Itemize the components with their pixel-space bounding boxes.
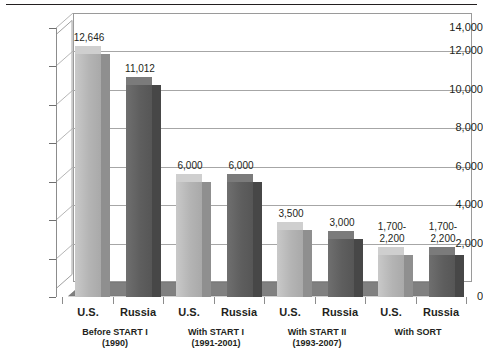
bar-top-face <box>75 46 101 54</box>
y-axis-label-4000: 4,000 <box>431 199 483 210</box>
bar-us-with-sort[interactable] <box>378 255 404 297</box>
bar-value-label-6: 3,000 <box>314 217 370 229</box>
bar-front-face <box>75 54 101 297</box>
bar-front-face <box>378 255 404 297</box>
wall-edge-12000 <box>56 51 74 67</box>
bar-front-face <box>126 85 152 297</box>
bar-russia-before-start-i[interactable] <box>126 85 152 297</box>
group-label-with-sort: With SORT <box>363 327 473 338</box>
category-tick-7 <box>416 297 417 304</box>
category-label-russia-4: Russia <box>413 306 469 318</box>
bar-top-face <box>429 247 455 255</box>
wall-edge-2000 <box>56 244 74 260</box>
bar-side-face <box>202 182 211 297</box>
y-axis-label-12000: 12,000 <box>431 45 483 56</box>
value-axis-line <box>56 28 57 297</box>
category-label-us-2: U.S. <box>161 306 217 318</box>
category-tick-8 <box>466 297 467 304</box>
bar-russia-with-start-i[interactable] <box>227 182 253 297</box>
bar-front-face <box>277 230 303 297</box>
y-axis-tick-8000 <box>49 143 56 144</box>
category-label-russia-1: Russia <box>110 306 166 318</box>
wall-edge-6000 <box>56 167 74 183</box>
y-axis-label-14000: 14,000 <box>431 22 483 33</box>
bar-side-face <box>455 255 464 297</box>
plot-area: 14,000 12,000 10,000 8,000 6,000 4,000 2… <box>0 0 483 352</box>
y-axis-tick-2000 <box>49 259 56 260</box>
bar-value-label-2: 11,012 <box>112 63 168 75</box>
group-label-with-start-i: With START I (1991-2001) <box>161 327 271 349</box>
bar-value-label-3: 6,000 <box>162 160 218 172</box>
bar-top-face <box>176 174 202 182</box>
wall-edge-4000 <box>56 205 74 221</box>
category-tick-6 <box>365 297 366 304</box>
bar-side-face <box>404 255 413 297</box>
gridline-12000 <box>73 51 472 52</box>
category-label-us-1: U.S. <box>60 306 116 318</box>
bar-side-face <box>354 239 363 297</box>
bar-us-with-start-i[interactable] <box>176 182 202 297</box>
category-label-russia-3: Russia <box>312 306 368 318</box>
category-tick-5 <box>315 297 316 304</box>
bar-us-with-start-ii[interactable] <box>277 230 303 297</box>
y-axis-tick-4000 <box>49 220 56 221</box>
category-label-us-4: U.S. <box>363 306 419 318</box>
bar-front-face <box>429 255 455 297</box>
bar-russia-with-sort[interactable] <box>429 255 455 297</box>
bar-side-face <box>101 54 110 297</box>
y-axis-tick-14000 <box>49 28 56 29</box>
y-axis-tick-0 <box>49 297 56 298</box>
wall-edge-14000 <box>56 13 74 29</box>
bar-value-label-7: 1,700- 2,200 <box>364 221 420 244</box>
y-axis-tick-10000 <box>49 105 56 106</box>
bar-front-face <box>227 182 253 297</box>
y-axis-label-6000: 6,000 <box>431 161 483 172</box>
bar-side-face <box>253 182 262 297</box>
group-label-with-start-ii: With START II (1993-2007) <box>262 327 372 349</box>
wall-edge-10000 <box>56 90 74 106</box>
y-axis-tick-6000 <box>49 182 56 183</box>
bar-top-face <box>378 247 404 255</box>
category-tick-4 <box>264 297 265 304</box>
category-label-us-3: U.S. <box>262 306 318 318</box>
category-tick-0 <box>62 297 63 304</box>
category-label-russia-2: Russia <box>211 306 267 318</box>
bar-value-label-4: 6,000 <box>213 160 269 172</box>
bar-top-face <box>328 231 354 239</box>
bar-russia-with-start-ii[interactable] <box>328 239 354 297</box>
bar-side-face <box>303 230 312 297</box>
category-tick-1 <box>113 297 114 304</box>
bar-us-before-start-i[interactable] <box>75 54 101 297</box>
group-label-before-start-i: Before START I (1990) <box>60 327 170 349</box>
bar-value-label-8: 1,700- 2,200 <box>415 221 471 244</box>
bar-front-face <box>328 239 354 297</box>
bar-front-face <box>176 182 202 297</box>
bar-value-label-1: 12,646 <box>61 32 117 44</box>
bar-top-face <box>227 174 253 182</box>
y-axis-label-10000: 10,000 <box>431 84 483 95</box>
bar-value-label-5: 3,500 <box>263 208 319 220</box>
wall-edge-8000 <box>56 128 74 144</box>
bar-top-face <box>126 77 152 85</box>
y-axis-tick-12000 <box>49 66 56 67</box>
bar-chart: 14,000 12,000 10,000 8,000 6,000 4,000 2… <box>0 0 483 352</box>
category-tick-2 <box>163 297 164 304</box>
bar-side-face <box>152 85 161 297</box>
category-tick-3 <box>214 297 215 304</box>
y-axis-label-8000: 8,000 <box>431 122 483 133</box>
bar-top-face <box>277 222 303 230</box>
